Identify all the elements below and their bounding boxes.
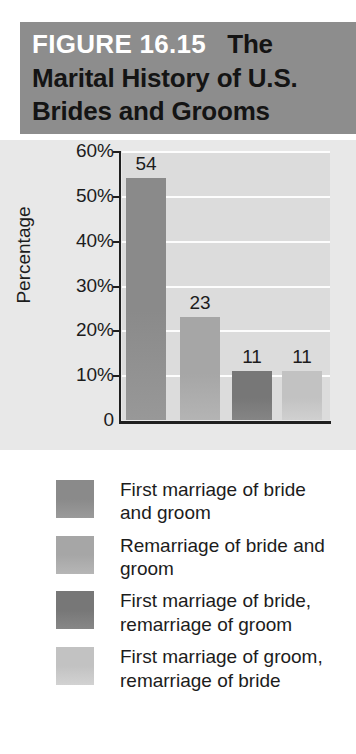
page-title: FIGURE 16.15 The Marital History of U.S.… xyxy=(32,28,346,129)
legend-swatch-3 xyxy=(56,591,94,629)
y-axis-tickmark xyxy=(113,286,120,288)
y-axis-tickmark xyxy=(113,375,120,377)
bar-2 xyxy=(180,317,220,420)
y-axis-tick-40: 40% xyxy=(52,230,114,252)
legend-item-4: First marriage of groom, remarriage of b… xyxy=(0,645,356,692)
y-axis-tick-60: 60% xyxy=(52,140,114,162)
y-axis-label: Percentage xyxy=(13,185,35,325)
figure-title-text xyxy=(206,29,227,59)
figure-number: FIGURE 16.15 xyxy=(32,29,206,59)
bar-1 xyxy=(126,178,166,420)
bar-3 xyxy=(232,371,272,420)
legend-label-3: First marriage of bride, remarriage of g… xyxy=(120,589,342,636)
y-axis-tickmark xyxy=(113,330,120,332)
legend-swatch-4 xyxy=(56,647,94,685)
plot-area: 54231111 xyxy=(122,151,330,420)
figure-title-band: FIGURE 16.15 The Marital History of U.S.… xyxy=(20,22,356,134)
bar-value-label-2: 23 xyxy=(180,292,220,314)
chart-legend: First marriage of bride and groomRemarri… xyxy=(0,478,356,701)
legend-swatch-1 xyxy=(56,480,94,518)
legend-swatch-2 xyxy=(56,536,94,574)
y-axis-tickmark xyxy=(113,241,120,243)
legend-label-4: First marriage of groom, remarriage of b… xyxy=(120,645,342,692)
legend-item-2: Remarriage of bride and groom xyxy=(0,534,356,581)
chart-container: Percentage 010%20%30%40%50%60% 54231111 xyxy=(0,140,356,450)
y-axis-tick-20: 20% xyxy=(52,319,114,341)
y-axis-tick-50: 50% xyxy=(52,185,114,207)
y-axis-tick-30: 30% xyxy=(52,275,114,297)
bar-value-label-3: 11 xyxy=(232,346,272,368)
legend-label-1: First marriage of bride and groom xyxy=(120,478,342,525)
bar-value-label-4: 11 xyxy=(282,346,322,368)
legend-item-3: First marriage of bride, remarriage of g… xyxy=(0,589,356,636)
y-axis-tick-10: 10% xyxy=(52,364,114,386)
y-axis-tick-0: 0 xyxy=(52,409,114,431)
bar-value-label-1: 54 xyxy=(126,153,166,175)
y-axis-tick-labels: 010%20%30%40%50%60% xyxy=(52,140,114,430)
legend-item-1: First marriage of bride and groom xyxy=(0,478,356,525)
x-axis-line xyxy=(119,421,331,424)
y-axis-tickmark xyxy=(113,196,120,198)
y-axis-tickmark xyxy=(113,151,120,153)
bar-4 xyxy=(282,371,322,420)
legend-label-2: Remarriage of bride and groom xyxy=(120,534,342,581)
figure-panel: FIGURE 16.15 The Marital History of U.S.… xyxy=(0,0,356,754)
